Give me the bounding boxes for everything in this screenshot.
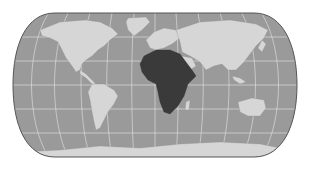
world-map xyxy=(0,0,309,169)
ocean xyxy=(0,0,309,169)
